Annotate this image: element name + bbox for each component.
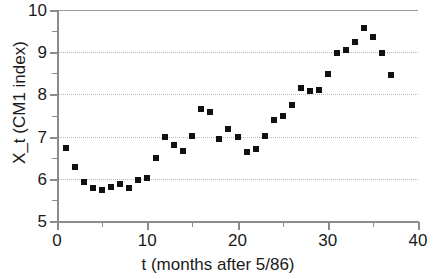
data-point: [216, 136, 222, 142]
y-tick-label: 7: [38, 129, 47, 146]
data-point: [198, 106, 204, 112]
x-tick-30: [328, 222, 330, 230]
x-tick-minor: [283, 222, 284, 227]
y-tick-label: 10: [28, 2, 47, 19]
y-tick-label: 9: [38, 44, 47, 61]
data-point: [162, 134, 168, 140]
gridline-y-10: [57, 10, 418, 11]
x-tick-label: 0: [52, 232, 61, 249]
scatter-plot-figure: 5678910 010203040 t (months after 5/86) …: [0, 0, 436, 279]
x-tick-label: 20: [228, 232, 247, 249]
x-axis-title: t (months after 5/86): [0, 256, 436, 273]
data-point: [307, 88, 313, 94]
x-tick-40: [418, 222, 420, 230]
x-tick-0: [57, 222, 59, 230]
y-axis-line: [57, 10, 59, 222]
y-tick-8: [50, 94, 58, 96]
x-tick-minor: [373, 222, 374, 227]
x-tick-label: 40: [409, 232, 428, 249]
gridline-y-6: [57, 179, 418, 180]
data-point: [108, 184, 114, 190]
y-axis-title: X_t (CM1 index): [11, 0, 28, 213]
data-point: [334, 50, 340, 56]
data-point: [189, 133, 195, 139]
plot-area: [57, 10, 418, 221]
data-point: [244, 149, 250, 155]
data-point: [63, 145, 69, 151]
y-tick-9: [50, 52, 58, 54]
data-point: [289, 102, 295, 108]
data-point: [253, 146, 259, 152]
data-point: [171, 142, 177, 148]
data-point: [262, 133, 268, 139]
data-point: [135, 177, 141, 183]
y-tick-minor: [52, 116, 57, 117]
data-point: [117, 181, 123, 187]
y-tick-label: 8: [38, 86, 47, 103]
data-point: [325, 71, 331, 77]
y-tick-minor: [52, 31, 57, 32]
data-point: [72, 164, 78, 170]
x-tick-10: [147, 222, 149, 230]
data-point: [379, 50, 385, 56]
data-point: [126, 185, 132, 191]
data-point: [280, 113, 286, 119]
y-tick-7: [50, 137, 58, 139]
data-point: [81, 179, 87, 185]
data-point: [90, 185, 96, 191]
data-point: [235, 134, 241, 140]
x-tick-minor: [192, 222, 193, 227]
data-point: [153, 155, 159, 161]
data-point: [388, 72, 394, 78]
y-tick-6: [50, 179, 58, 181]
data-point: [271, 117, 277, 123]
y-tick-label: 6: [38, 171, 47, 188]
data-point: [207, 109, 213, 115]
x-tick-label: 10: [138, 232, 157, 249]
y-tick-minor: [52, 73, 57, 74]
y-tick-minor: [52, 158, 57, 159]
data-point: [180, 148, 186, 154]
x-tick-20: [238, 222, 240, 230]
data-point: [99, 187, 105, 193]
gridline-y-8: [57, 94, 418, 95]
data-point: [352, 39, 358, 45]
x-tick-label: 30: [318, 232, 337, 249]
gridline-y-9: [57, 52, 418, 53]
data-point: [225, 126, 231, 132]
y-tick-10: [50, 10, 58, 12]
data-point: [316, 87, 322, 93]
data-point: [144, 175, 150, 181]
y-tick-minor: [52, 200, 57, 201]
data-point: [343, 47, 349, 53]
y-tick-label: 5: [38, 213, 47, 230]
x-tick-minor: [102, 222, 103, 227]
data-point: [370, 34, 376, 40]
data-point: [298, 85, 304, 91]
data-point: [361, 25, 367, 31]
